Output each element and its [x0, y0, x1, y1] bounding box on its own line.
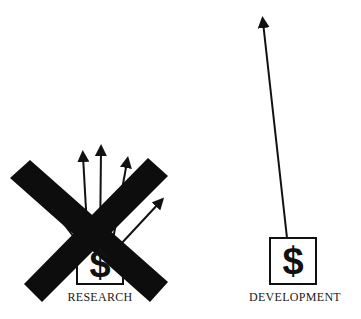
development-arrow: [263, 22, 287, 238]
development-dollar-icon: $: [270, 241, 316, 281]
research-dollar-icon: $: [77, 244, 123, 284]
development-label: DEVELOPMENT: [240, 290, 350, 305]
research-label: RESEARCH: [50, 290, 150, 305]
arrow-icon: [263, 22, 287, 238]
